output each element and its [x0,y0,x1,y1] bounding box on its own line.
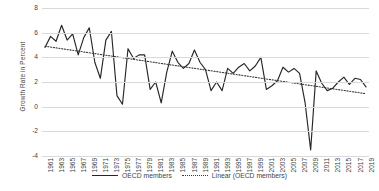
gridline-2 [42,82,369,83]
y-tick-label-0: 0 [34,103,38,110]
x-tick-label-1997: 1997 [247,158,254,172]
solid-line-swatch-icon [92,175,118,176]
x-tick-label-2013: 2013 [335,158,342,172]
plot-area [42,8,369,156]
x-tick-label-1965: 1965 [70,158,77,172]
y-tick-label-4: 4 [34,54,38,61]
x-tick-label-1983: 1983 [169,158,176,172]
gridline-8 [42,8,369,9]
x-tick-label-2007: 2007 [302,158,309,172]
gridline--2 [42,131,369,132]
x-tick-label-1987: 1987 [192,158,199,172]
x-tick-label-1969: 1969 [92,158,99,172]
x-tick-label-1979: 1979 [147,158,154,172]
x-tick-label-1975: 1975 [125,158,132,172]
x-tick-label-2017: 2017 [358,158,365,172]
y-axis-tick-labels: 86420-2-4 [18,0,38,191]
x-tick-label-1985: 1985 [180,158,187,172]
x-tick-label-2003: 2003 [280,158,287,172]
y-tick-label--4: -4 [32,153,38,160]
y-tick-label-6: 6 [34,29,38,36]
y-tick-label-8: 8 [34,5,38,12]
x-tick-label-1989: 1989 [203,158,210,172]
x-tick-label-2005: 2005 [291,158,298,172]
x-tick-label-1999: 1999 [258,158,265,172]
x-tick-label-1971: 1971 [103,158,110,172]
x-tick-label-2001: 2001 [269,158,276,172]
x-tick-label-1981: 1981 [158,158,165,172]
gridline-4 [42,57,369,58]
legend-item-linear-trend: Linear (OECD members) [182,172,287,179]
x-tick-label-1961: 1961 [48,158,55,172]
x-tick-label-2015: 2015 [346,158,353,172]
x-tick-label-1991: 1991 [214,158,221,172]
x-tick-label-2011: 2011 [324,158,331,172]
y-tick-label-2: 2 [34,79,38,86]
x-axis-tick-labels: 1961196319651967196919711973197519771979… [42,158,369,184]
gridline--4 [42,156,369,157]
growth-rate-line-chart: Growth Rate in Percent 86420-2-4 1961196… [0,0,379,191]
y-tick-label--2: -2 [32,128,38,135]
x-tick-label-1967: 1967 [81,158,88,172]
x-tick-label-1973: 1973 [114,158,121,172]
x-tick-label-1977: 1977 [136,158,143,172]
dotted-line-swatch-icon [182,175,208,176]
legend-label-linear-trend: Linear (OECD members) [212,172,287,179]
gridline-6 [42,33,369,34]
legend-label-oecd-members: OECD members [122,172,172,179]
x-tick-label-2009: 2009 [313,158,320,172]
x-tick-label-1963: 1963 [59,158,66,172]
chart-legend: OECD members Linear (OECD members) [0,172,379,179]
gridline-0 [42,107,369,108]
x-tick-label-1993: 1993 [225,158,232,172]
x-tick-label-1995: 1995 [236,158,243,172]
legend-item-oecd-members: OECD members [92,172,172,179]
linear-trendline [45,46,366,93]
x-tick-label-2019: 2019 [369,158,376,172]
